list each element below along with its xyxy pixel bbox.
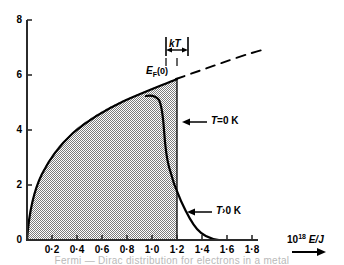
y-tick-label-0: 0: [6, 235, 22, 245]
x-tick-label-3: 0·8: [115, 245, 139, 255]
y-tick-label-8: 8: [6, 15, 22, 25]
x-axis-variable: E/J: [309, 234, 324, 245]
fermi-guide-ticks: [166, 58, 177, 66]
x-tick-label-4: 1·0: [140, 245, 164, 255]
x-tick-label-2: 0·6: [90, 245, 114, 255]
t-positive-label: T›0 K: [216, 206, 241, 216]
y-tick-label-6: 6: [6, 70, 22, 80]
x-axis-mantissa: 10: [287, 234, 298, 245]
x-tick-label-1: 0·4: [65, 245, 89, 255]
y-tick-label-2: 2: [6, 180, 22, 190]
x-tick-label-6: 1·4: [190, 245, 214, 255]
x-tick-label-7: 1·6: [215, 245, 239, 255]
figure-root: 8 6 4 2 0 0·2 0·4 0·6 0·8 1·0 1·2 1·4 1·…: [0, 0, 344, 265]
t-zero-rest: =0 K: [217, 115, 238, 126]
figure-caption: Fermi — Dirac distribution for electrons…: [0, 255, 344, 265]
fermi-label-base: E: [146, 65, 153, 76]
dashed-extension-curve: [176, 49, 266, 79]
t-positive-rest: ›0 K: [222, 205, 241, 216]
fermi-level-label: EF(0): [146, 66, 168, 78]
kt-label: kT: [169, 39, 181, 49]
x-axis-label: 1018 E/J: [287, 233, 324, 245]
t-zero-label: T=0 K: [211, 116, 239, 126]
y-tick-label-4: 4: [6, 125, 22, 135]
x-tick-label-0: 0·2: [40, 245, 64, 255]
t-zero-arrow: [182, 119, 207, 126]
fermi-label-tail: (0): [157, 66, 168, 76]
x-tick-label-5: 1·2: [165, 245, 189, 255]
t-positive-arrow: [187, 209, 212, 216]
x-axis-exponent: 18: [298, 233, 306, 240]
x-tick-label-8: 1·8: [240, 245, 264, 255]
